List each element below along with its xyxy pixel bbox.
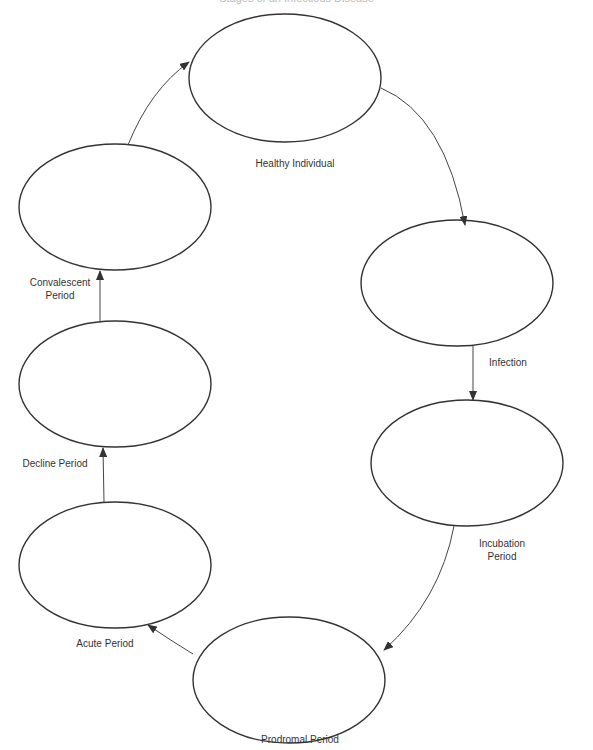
stage-ellipse-incubation: [371, 400, 563, 526]
label-convalescent-period: Convalescent Period: [10, 276, 110, 302]
label-decline-period: Decline Period: [5, 457, 105, 470]
label-healthy-individual: Healthy Individual: [230, 157, 360, 170]
stage-ellipse-decline: [19, 321, 211, 447]
stage-ellipse-prodromal: [193, 617, 385, 743]
label-incubation-period: Incubation Period: [462, 537, 542, 563]
arrow-convalescent-to-healthy: [128, 62, 189, 145]
label-incubation-line2: Period: [462, 550, 542, 563]
label-incubation-line1: Incubation: [462, 537, 542, 550]
label-convalescent-line2: Period: [10, 289, 110, 302]
stage-ellipse-healthy: [189, 14, 381, 142]
label-infection: Infection: [478, 356, 538, 369]
stage-ellipse-infection: [361, 220, 553, 346]
label-convalescent-line1: Convalescent: [10, 276, 110, 289]
arrow-incubation-to-prodromal: [384, 526, 454, 650]
label-prodromal-period: Prodromal Period: [240, 733, 360, 746]
label-acute-period: Acute Period: [55, 637, 155, 650]
stage-ellipse-convalescent: [19, 144, 211, 270]
arrow-healthy-to-infection: [381, 88, 465, 225]
stage-ellipse-acute: [19, 502, 211, 628]
